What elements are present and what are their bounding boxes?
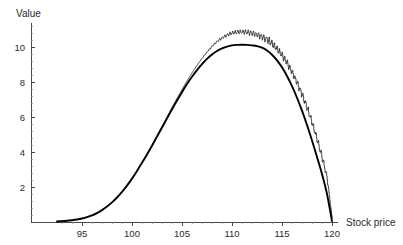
y-tick-label-4: 4: [20, 147, 25, 158]
x-tick-label-115: 115: [274, 228, 289, 239]
labels-group: Value Stock price: [16, 8, 396, 228]
x-tick-label-120: 120: [324, 228, 340, 239]
smooth-value-curve: [57, 45, 332, 222]
y-tick-label-8: 8: [20, 77, 25, 88]
jagged-lattice-curve: [57, 30, 332, 222]
y-tick-label-10: 10: [14, 42, 25, 53]
x-tick-label-100: 100: [124, 228, 140, 239]
chart-svg: 95100105110115120246810 Value Stock pric…: [0, 0, 403, 245]
x-tick-label-95: 95: [77, 228, 88, 239]
axes-group: [31, 23, 338, 223]
x-axis-title: Stock price: [346, 217, 396, 228]
option-value-chart: 95100105110115120246810 Value Stock pric…: [0, 0, 403, 245]
ticks-group: 95100105110115120246810: [14, 26, 340, 239]
y-axis-title: Value: [16, 8, 41, 19]
y-tick-label-6: 6: [20, 112, 25, 123]
x-tick-label-105: 105: [174, 228, 190, 239]
x-tick-label-110: 110: [224, 228, 239, 239]
curves-group: [57, 30, 332, 222]
y-tick-label-2: 2: [20, 182, 25, 193]
